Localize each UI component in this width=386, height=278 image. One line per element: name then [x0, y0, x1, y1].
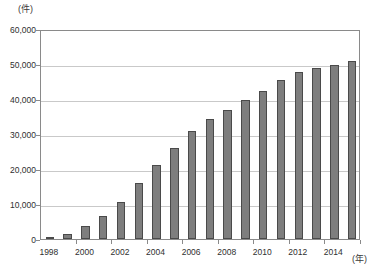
- y-axis-label-group: 010,00020,00030,00040,00050,00060,000: [0, 0, 36, 278]
- x-axis-unit-label: (年): [352, 252, 367, 265]
- y-axis-tick-label: 30,000: [10, 130, 36, 140]
- bar: [330, 65, 339, 239]
- bar: [117, 202, 126, 239]
- bar-chart: (件) (年) 010,00020,00030,00040,00050,0006…: [0, 0, 386, 278]
- bar: [135, 183, 144, 239]
- bar: [312, 68, 321, 240]
- x-axis-tick-mark: [289, 240, 290, 244]
- x-axis-tick-label: 2014: [324, 247, 343, 257]
- bar: [99, 216, 108, 239]
- y-axis-tick-label: 60,000: [10, 25, 36, 35]
- x-axis-tick-label: 2000: [75, 247, 94, 257]
- x-axis-tick-label: 2010: [253, 247, 272, 257]
- x-axis-tick-mark: [218, 240, 219, 244]
- x-axis-tick-mark: [324, 240, 325, 244]
- bar: [348, 61, 357, 240]
- x-axis-tick-label: 2006: [182, 247, 201, 257]
- bar: [241, 100, 250, 239]
- y-axis-tick-label: 50,000: [10, 60, 36, 70]
- plot-area: [40, 30, 360, 240]
- bar: [81, 226, 90, 239]
- x-axis-tick-mark: [253, 240, 254, 244]
- bar: [188, 131, 197, 240]
- x-axis-tick-mark: [76, 240, 77, 244]
- y-axis-tick-mark: [36, 240, 40, 241]
- x-axis-tick-label: 1998: [39, 247, 58, 257]
- x-axis-tick-label: 2008: [217, 247, 236, 257]
- bar: [46, 237, 55, 239]
- bar: [277, 80, 286, 239]
- x-axis-tick-mark: [182, 240, 183, 244]
- bar: [295, 72, 304, 239]
- x-axis-tick-label: 2002: [111, 247, 130, 257]
- x-axis-tick-label: 2012: [288, 247, 307, 257]
- bar: [152, 165, 161, 239]
- bar-series: [41, 31, 359, 239]
- bar: [259, 91, 268, 239]
- bar: [206, 119, 215, 239]
- bar: [63, 234, 72, 239]
- x-axis-tick-mark: [147, 240, 148, 244]
- bar: [170, 148, 179, 239]
- x-axis-tick-mark: [360, 240, 361, 244]
- y-axis-tick-label: 10,000: [10, 200, 36, 210]
- bar: [223, 110, 232, 239]
- x-axis-tick-mark: [111, 240, 112, 244]
- y-axis-tick-label: 40,000: [10, 95, 36, 105]
- x-axis-tick-label: 2004: [146, 247, 165, 257]
- y-axis-tick-label: 20,000: [10, 165, 36, 175]
